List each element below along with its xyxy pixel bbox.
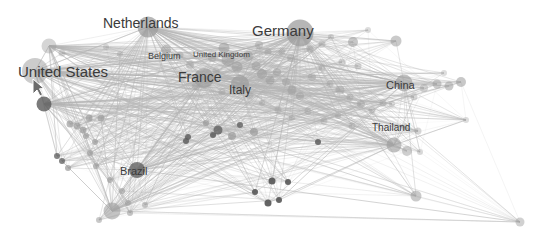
graph-node[interactable] bbox=[328, 34, 334, 40]
graph-node[interactable] bbox=[255, 41, 263, 49]
graph-node[interactable] bbox=[186, 61, 194, 69]
graph-node[interactable] bbox=[192, 82, 200, 90]
graph-node[interactable] bbox=[125, 200, 131, 206]
graph-node[interactable] bbox=[265, 200, 272, 207]
graph-node[interactable] bbox=[269, 178, 276, 185]
graph-node[interactable] bbox=[247, 93, 254, 100]
graph-node[interactable] bbox=[67, 121, 74, 128]
graph-node[interactable] bbox=[369, 107, 376, 114]
graph-node[interactable] bbox=[74, 123, 81, 130]
graph-node[interactable] bbox=[389, 101, 395, 107]
graph-node[interactable] bbox=[250, 128, 258, 136]
graph-node[interactable] bbox=[87, 150, 93, 156]
graph-node[interactable] bbox=[433, 80, 442, 89]
graph-node[interactable] bbox=[161, 45, 171, 55]
graph-node[interactable] bbox=[98, 115, 105, 122]
graph-node[interactable] bbox=[417, 149, 423, 155]
graph-node[interactable] bbox=[287, 54, 295, 62]
graph-node[interactable] bbox=[42, 39, 57, 54]
graph-node[interactable] bbox=[305, 108, 312, 115]
graph-node[interactable] bbox=[83, 133, 89, 139]
graph-node[interactable] bbox=[228, 132, 236, 140]
graph-node[interactable] bbox=[288, 86, 297, 95]
graph-node[interactable] bbox=[456, 77, 466, 87]
graph-node[interactable] bbox=[296, 92, 304, 100]
graph-node[interactable] bbox=[391, 36, 402, 47]
graph-node[interactable] bbox=[243, 51, 253, 61]
graph-node[interactable] bbox=[516, 218, 525, 227]
graph-node[interactable] bbox=[237, 122, 243, 128]
graph-node[interactable] bbox=[142, 202, 148, 208]
graph-node[interactable] bbox=[387, 138, 402, 153]
graph-node[interactable] bbox=[420, 84, 428, 92]
graph-node[interactable] bbox=[59, 158, 65, 164]
graph-node[interactable] bbox=[321, 118, 328, 125]
graph-node[interactable] bbox=[107, 177, 113, 183]
graph-node[interactable] bbox=[287, 20, 314, 47]
graph-node[interactable] bbox=[80, 127, 87, 134]
graph-node[interactable] bbox=[104, 203, 121, 220]
graph-node[interactable] bbox=[319, 41, 326, 48]
graph-node[interactable] bbox=[411, 191, 422, 202]
graph-node[interactable] bbox=[275, 107, 282, 114]
graph-node[interactable] bbox=[315, 139, 321, 145]
graph-node[interactable] bbox=[402, 124, 409, 131]
graph-node[interactable] bbox=[282, 78, 290, 86]
graph-node[interactable] bbox=[210, 132, 216, 138]
graph-node[interactable] bbox=[276, 197, 282, 203]
graph-node[interactable] bbox=[336, 86, 345, 95]
graph-node[interactable] bbox=[22, 58, 48, 84]
graph-node[interactable] bbox=[411, 94, 418, 101]
graph-node[interactable] bbox=[445, 82, 454, 91]
graph-node[interactable] bbox=[208, 54, 216, 62]
graph-node[interactable] bbox=[185, 134, 191, 140]
graph-node[interactable] bbox=[119, 188, 125, 194]
graph-node[interactable] bbox=[259, 100, 265, 106]
graph-node[interactable] bbox=[308, 73, 316, 81]
graph-node[interactable] bbox=[357, 100, 365, 108]
graph-node[interactable] bbox=[138, 17, 159, 38]
graph-node[interactable] bbox=[86, 115, 93, 122]
graph-node[interactable] bbox=[441, 70, 447, 76]
graph-node[interactable] bbox=[319, 65, 326, 72]
graph-node[interactable] bbox=[252, 189, 258, 195]
graph-node[interactable] bbox=[266, 76, 275, 85]
graph-node[interactable] bbox=[396, 75, 413, 92]
graph-node[interactable] bbox=[347, 94, 354, 101]
graph-node[interactable] bbox=[327, 81, 334, 88]
graph-node[interactable] bbox=[402, 146, 412, 156]
graph-node[interactable] bbox=[54, 153, 60, 159]
graph-node[interactable] bbox=[355, 63, 362, 70]
graph-node[interactable] bbox=[339, 59, 346, 66]
graph-node[interactable] bbox=[37, 97, 52, 112]
graph-node[interactable] bbox=[177, 52, 184, 59]
graph-node[interactable] bbox=[59, 50, 66, 57]
graph-node[interactable] bbox=[365, 27, 371, 33]
graph-node[interactable] bbox=[252, 62, 261, 71]
graph-node[interactable] bbox=[117, 51, 123, 57]
graph-node[interactable] bbox=[213, 68, 220, 75]
graph-node[interactable] bbox=[289, 115, 295, 121]
graph-node[interactable] bbox=[96, 217, 102, 223]
graph-node[interactable] bbox=[65, 165, 71, 171]
graph-node[interactable] bbox=[231, 75, 249, 93]
graph-node[interactable] bbox=[348, 37, 358, 47]
graph-node[interactable] bbox=[103, 44, 109, 50]
graph-node[interactable] bbox=[219, 43, 230, 54]
graph-node[interactable] bbox=[307, 46, 314, 53]
graph-node[interactable] bbox=[203, 120, 209, 126]
graph-node[interactable] bbox=[232, 62, 243, 73]
graph-node[interactable] bbox=[279, 49, 286, 56]
graph-node[interactable] bbox=[219, 89, 226, 96]
network-graph-visualization[interactable]: GermanyUnited StatesNetherlandsFranceIta… bbox=[0, 0, 548, 241]
graph-node[interactable] bbox=[93, 163, 99, 169]
graph-node[interactable] bbox=[463, 117, 469, 123]
graph-node[interactable] bbox=[265, 49, 272, 56]
graph-node[interactable] bbox=[380, 100, 387, 107]
graph-node[interactable] bbox=[273, 68, 281, 76]
graph-node[interactable] bbox=[127, 210, 133, 216]
graph-node[interactable] bbox=[349, 123, 356, 130]
graph-node[interactable] bbox=[285, 179, 291, 185]
graph-node[interactable] bbox=[257, 69, 267, 79]
graph-node[interactable] bbox=[92, 139, 98, 145]
